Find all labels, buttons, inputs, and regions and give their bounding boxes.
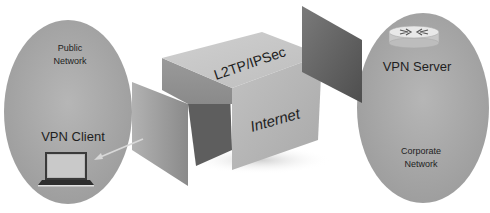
corporate-network-label-line2: Network bbox=[404, 159, 438, 169]
vpn-diagram: L2TP/IPSec Internet Public Network VPN C… bbox=[0, 0, 490, 213]
laptop-icon bbox=[38, 152, 94, 187]
vpn-server-label: VPN Server bbox=[383, 59, 452, 74]
corporate-network-label-line1: Corporate bbox=[401, 146, 441, 156]
public-network-label-line2: Network bbox=[53, 56, 87, 66]
vpn-client-label: VPN Client bbox=[41, 129, 105, 144]
router-icon bbox=[389, 26, 439, 48]
public-network-label-line1: Public bbox=[58, 43, 83, 53]
